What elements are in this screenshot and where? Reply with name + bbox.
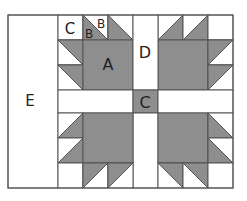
label-b-light: B: [97, 17, 105, 31]
piece-d-sash-right: [158, 90, 233, 113]
quilt-block-diagram: E C B B A D C: [0, 0, 247, 201]
label-a: A: [103, 55, 114, 74]
piece-c-corner-br: [208, 163, 233, 188]
label-c-corner: C: [65, 20, 75, 38]
piece-a-br: [158, 113, 208, 163]
piece-a-bl: [83, 113, 133, 163]
piece-d-sash-bottom: [133, 113, 158, 188]
label-b-dark: B: [85, 27, 93, 41]
label-e: E: [25, 92, 34, 110]
label-c-center: C: [139, 93, 150, 112]
piece-a-tr: [158, 40, 208, 90]
label-d: D: [139, 43, 151, 62]
piece-c-corner-tr: [208, 15, 233, 40]
piece-d-sash-left: [58, 90, 133, 113]
piece-c-corner-bl: [58, 163, 83, 188]
quilt-pieces: [8, 15, 233, 188]
